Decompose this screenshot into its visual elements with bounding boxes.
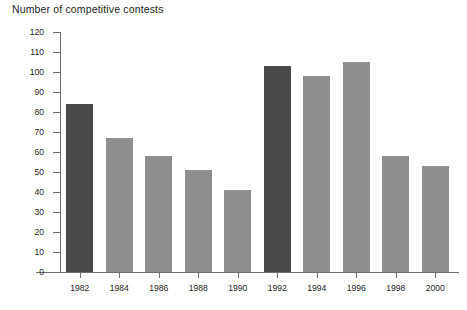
x-axis-label-1986: 1986 <box>149 283 168 293</box>
x-axis-tick <box>159 272 160 278</box>
x-axis-tick <box>238 272 239 278</box>
bar-1988 <box>185 170 212 272</box>
x-axis-label-2000: 2000 <box>426 283 445 293</box>
bar-1982 <box>66 104 93 272</box>
x-axis-tick <box>119 272 120 278</box>
bars-layer <box>0 0 467 310</box>
bar-1998 <box>382 156 409 272</box>
x-axis-label-1994: 1994 <box>307 283 326 293</box>
x-axis-tick <box>396 272 397 278</box>
x-axis-tick <box>198 272 199 278</box>
x-axis-tick <box>277 272 278 278</box>
bar-1984 <box>106 138 133 272</box>
bar-2000 <box>422 166 449 272</box>
x-axis-label-1992: 1992 <box>268 283 287 293</box>
x-axis-label-1984: 1984 <box>110 283 129 293</box>
x-axis-tick <box>317 272 318 278</box>
bar-1994 <box>303 76 330 272</box>
bar-chart: Number of competitive contests 010203040… <box>0 0 467 310</box>
bar-1996 <box>343 62 370 272</box>
bar-1992 <box>264 66 291 272</box>
bar-1986 <box>145 156 172 272</box>
x-axis-label-1988: 1988 <box>189 283 208 293</box>
x-axis-label-1982: 1982 <box>70 283 89 293</box>
bar-1990 <box>224 190 251 272</box>
x-axis-tick <box>80 272 81 278</box>
x-axis-tick <box>435 272 436 278</box>
x-axis-label-1998: 1998 <box>386 283 405 293</box>
x-axis-tick <box>356 272 357 278</box>
x-axis-label-1996: 1996 <box>347 283 366 293</box>
x-axis-label-1990: 1990 <box>228 283 247 293</box>
